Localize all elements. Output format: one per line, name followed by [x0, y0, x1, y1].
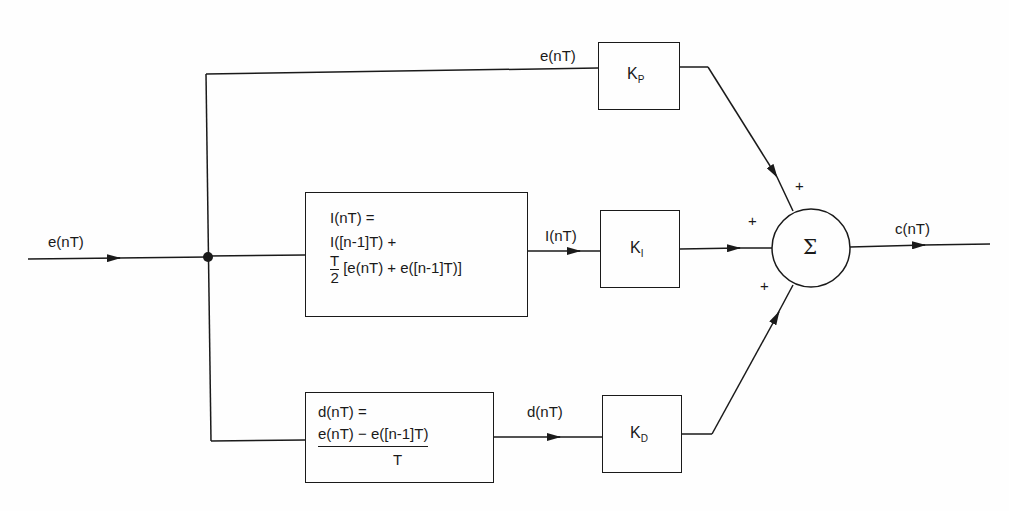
derivative-eq-line1: d(nT) = — [318, 401, 367, 423]
integral-signal-label: I(nT) — [545, 227, 577, 244]
output-label: c(nT) — [895, 220, 930, 237]
kd-gain-block: KD — [602, 395, 682, 473]
integral-eq-line1: I(nT) = — [330, 207, 375, 229]
kp-label: KP — [627, 65, 644, 85]
pid-block-diagram: e(nT) e(nT) KP I(nT) = I([n-1]T) + T2[e(… — [0, 0, 1009, 511]
derivative-block: d(nT) = e(nT) − e([n-1]T) T — [305, 392, 494, 483]
kd-label: KD — [630, 424, 648, 444]
input-label: e(nT) — [48, 233, 84, 250]
integral-block: I(nT) = I([n-1]T) + T2[e(nT) + e([n-1]T)… — [305, 192, 528, 317]
proportional-signal-label: e(nT) — [540, 47, 576, 64]
plus-sign-top: + — [795, 177, 804, 194]
kp-gain-block: KP — [598, 42, 680, 110]
ki-label: KI — [630, 239, 643, 259]
ki-gain-block: KI — [600, 210, 680, 288]
derivative-numerator: e(nT) − e([n-1]T) — [318, 423, 428, 447]
integral-eq-line2: I([n-1]T) + — [330, 231, 396, 253]
derivative-signal-label: d(nT) — [527, 403, 563, 420]
plus-sign-bottom: + — [760, 277, 769, 294]
plus-sign-middle: + — [748, 212, 757, 229]
junction-dot — [203, 252, 213, 262]
summer-sigma: Σ — [803, 235, 817, 259]
derivative-denominator: T — [393, 449, 402, 471]
integral-eq-line3: T2[e(nT) + e([n-1]T)] — [330, 253, 462, 286]
